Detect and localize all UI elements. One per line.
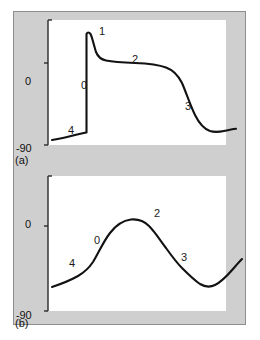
panel-a: 0 -90 4 0 1 2 3 (a) — [14, 12, 247, 169]
y-axis-label-zero-a: 0 — [25, 75, 31, 87]
action-potential-curve-b — [52, 219, 242, 287]
phase-label-3-b: 3 — [181, 251, 187, 263]
panel-b: 0 -90 4 0 2 3 (b) — [14, 169, 247, 326]
phase-label-4-a: 4 — [68, 124, 74, 136]
phase-label-0-a: 0 — [81, 79, 87, 91]
y-axis-label-min90-a: -90 — [16, 142, 31, 154]
phase-label-0-b: 0 — [94, 234, 100, 246]
phase-label-1-a: 1 — [99, 25, 105, 37]
phase-label-2-b: 2 — [154, 207, 160, 219]
panel-b-graphics — [14, 169, 247, 326]
figure-frame: 0 -90 4 0 1 2 3 (a) 0 -90 4 0 — [13, 11, 246, 325]
phase-label-3-a: 3 — [185, 100, 191, 112]
panel-tag-b: (b) — [15, 317, 28, 329]
y-axis-label-zero-b: 0 — [25, 218, 31, 230]
phase-label-4-b: 4 — [69, 257, 75, 269]
panel-a-graphics — [14, 12, 247, 169]
panel-tag-a: (a) — [15, 154, 28, 166]
figure-canvas: 0 -90 4 0 1 2 3 (a) 0 -90 4 0 — [0, 0, 260, 340]
phase-label-2-a: 2 — [132, 53, 138, 65]
action-potential-curve-a — [52, 33, 236, 141]
